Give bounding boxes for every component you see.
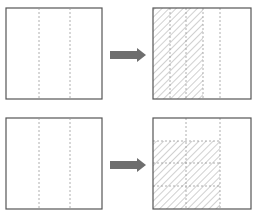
right-arrow-icon xyxy=(110,158,146,172)
source-square xyxy=(6,8,102,99)
square-outline xyxy=(6,118,102,209)
shaded-region xyxy=(153,141,220,209)
square-outline xyxy=(6,8,102,99)
result-square xyxy=(153,118,251,209)
source-square xyxy=(6,118,102,209)
arrow-shaft xyxy=(110,51,138,59)
arrow-shaft xyxy=(110,161,138,169)
result-square xyxy=(153,8,251,99)
diagram-canvas xyxy=(0,0,258,221)
row-2 xyxy=(6,118,251,209)
shaded-region xyxy=(153,8,203,99)
arrow-head xyxy=(137,158,146,172)
right-arrow-icon xyxy=(110,48,146,62)
arrow-head xyxy=(137,48,146,62)
row-1 xyxy=(6,8,251,99)
